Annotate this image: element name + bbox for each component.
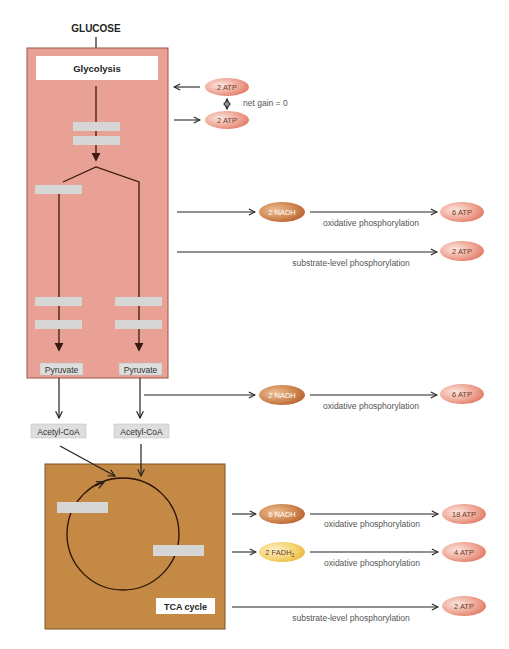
- pyruvate-nadh-label: 2 NADH: [268, 391, 296, 400]
- glucose-title: GLUCOSE: [71, 23, 121, 34]
- tca-nadh-atp-label: 18 ATP: [452, 510, 476, 519]
- tca-fadh2-oxphos-label: oxidative phosphorylation: [324, 558, 420, 568]
- blank-step-3: [35, 185, 82, 194]
- pyruvate-right-label: Pyruvate: [124, 365, 158, 375]
- glycolysis-nadh-label: 2 NADH: [268, 208, 296, 217]
- fadh2-subscript: 2: [292, 552, 295, 558]
- atp-out-label: 2 ATP: [217, 116, 237, 125]
- tca-label: TCA cycle: [164, 602, 207, 612]
- acetyl-right-label: Acetyl-CoA: [120, 427, 163, 437]
- blank-step-6: [115, 297, 162, 306]
- tca-nadh-oxphos-label: oxidative phosphorylation: [324, 519, 420, 529]
- tca-fadh2-atp-label: 4 ATP: [454, 548, 474, 557]
- net-gain-label: net gain = 0: [243, 98, 288, 108]
- glycolysis-substrate-label: substrate-level phosphorylation: [292, 258, 410, 268]
- blank-tca-step-2: [153, 545, 204, 556]
- tca-substrate-atp-label: 2 ATP: [454, 602, 474, 611]
- metabolism-diagram: GLUCOSE Glycolysis Pyruvate Pyruvate Ace…: [0, 0, 509, 649]
- glycolysis-substrate-atp-label: 2 ATP: [452, 247, 472, 256]
- acetyl-left-label: Acetyl-CoA: [37, 427, 80, 437]
- glycolysis-nadh-atp-label: 6 ATP: [452, 208, 472, 217]
- blank-step-5: [35, 320, 82, 329]
- blank-step-4: [35, 297, 82, 306]
- blank-step-2: [73, 136, 120, 145]
- glycolysis-label: Glycolysis: [73, 63, 121, 74]
- pyruvate-oxphos-label: oxidative phosphorylation: [323, 401, 419, 411]
- blank-step-1: [73, 122, 120, 131]
- tca-substrate-label: substrate-level phosphorylation: [292, 613, 410, 623]
- glycolysis-oxphos-label: oxidative phosphorylation: [323, 218, 419, 228]
- tca-nadh-label: 6 NADH: [268, 510, 296, 519]
- pyruvate-nadh-atp-label: 6 ATP: [452, 390, 472, 399]
- pyruvate-left-label: Pyruvate: [45, 365, 79, 375]
- blank-tca-step-1: [57, 502, 108, 513]
- atp-in-label: 2 ATP: [217, 83, 237, 92]
- blank-step-7: [115, 320, 162, 329]
- tca-fadh2-label: 2 FADH2: [265, 548, 294, 558]
